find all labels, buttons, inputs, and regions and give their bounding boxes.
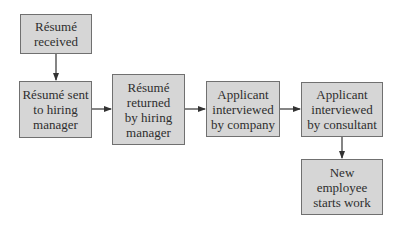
node-line: New — [313, 165, 370, 180]
node-line: interviewed — [211, 102, 275, 117]
node-line: by consultant — [307, 117, 377, 132]
node-line: Applicant — [211, 87, 275, 102]
node-line: returned — [125, 95, 172, 110]
node-resume-returned: Résumé returned by hiring manager — [112, 74, 185, 145]
node-line: employee — [313, 180, 370, 195]
node-line: manager — [22, 117, 88, 132]
node-line: Résumé sent — [22, 87, 88, 102]
node-interviewed-by-company: Applicant interviewed by company — [206, 81, 280, 137]
node-new-employee-starts: New employee starts work — [301, 159, 383, 215]
node-line: Résumé — [125, 80, 172, 95]
node-line: Applicant — [307, 87, 377, 102]
node-line: Résumé — [34, 19, 78, 34]
node-resume-received: Résumé received — [20, 14, 92, 54]
node-line: to hiring — [22, 102, 88, 117]
node-line: by company — [211, 117, 275, 132]
node-interviewed-by-consultant: Applicant interviewed by consultant — [301, 82, 383, 137]
node-line: by hiring — [125, 110, 172, 125]
node-line: interviewed — [307, 102, 377, 117]
node-line: manager — [125, 125, 172, 140]
node-resume-sent: Résumé sent to hiring manager — [19, 81, 92, 138]
node-line: received — [34, 34, 78, 49]
node-line: starts work — [313, 195, 370, 210]
